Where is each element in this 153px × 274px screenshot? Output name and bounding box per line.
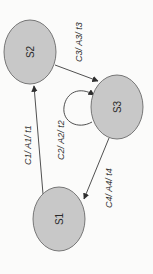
node-s1: S1 <box>33 187 85 251</box>
edge-label-c3: C3/ A3/ t3 <box>74 22 84 62</box>
arrow-line <box>55 65 98 81</box>
node-label-s2: S2 <box>25 45 36 58</box>
state-diagram: C1/ A1/ t1 C2/ A2/ t2 C3/ A3/ t3 C4/ A4/… <box>0 0 153 274</box>
node-label-s1: S1 <box>54 212 65 225</box>
edge-label-c2: C2/ A2/ t2 <box>56 120 66 160</box>
edge-label-c4: C4/ A4/ t4 <box>104 168 114 208</box>
edge-s3-self-loop: C2/ A2/ t2 <box>56 91 94 160</box>
edge-label-c1: C1/ A1/ t1 <box>23 125 33 165</box>
edge-s3-to-s1: C4/ A4/ t4 <box>84 138 114 208</box>
self-loop-arrow <box>64 91 94 125</box>
edge-s1-to-s2: C1/ A1/ t1 <box>23 86 43 194</box>
edge-s2-to-s3: C3/ A3/ t3 <box>55 22 98 81</box>
node-s3: S3 <box>91 75 143 139</box>
arrow-line <box>34 86 43 194</box>
node-s2: S2 <box>4 20 56 84</box>
node-label-s3: S3 <box>112 100 123 113</box>
